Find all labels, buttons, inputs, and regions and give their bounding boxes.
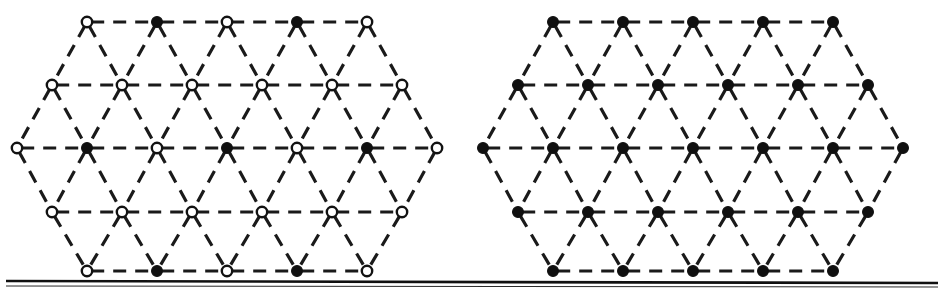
lattice-node-open[interactable] (362, 17, 372, 27)
lattice-node-open[interactable] (117, 207, 127, 217)
lattice-node-filled[interactable] (723, 207, 734, 218)
lattice-node-open[interactable] (187, 207, 197, 217)
lattice-node-filled[interactable] (478, 143, 489, 154)
lattice-node-filled[interactable] (152, 17, 163, 28)
lattice-node-filled[interactable] (82, 143, 93, 154)
lattice-node-filled[interactable] (513, 207, 524, 218)
lattice-node-filled[interactable] (653, 80, 664, 91)
lattice-node-filled[interactable] (688, 266, 699, 277)
lattice-node-filled[interactable] (688, 143, 699, 154)
lattice-node-filled[interactable] (618, 17, 629, 28)
lattice-node-filled[interactable] (758, 143, 769, 154)
lattice-node-open[interactable] (257, 80, 267, 90)
lattice-node-filled[interactable] (292, 17, 303, 28)
lattice-node-open[interactable] (82, 17, 92, 27)
lattice-node-open[interactable] (292, 143, 302, 153)
lattice-node-filled[interactable] (292, 266, 303, 277)
lattice-node-filled[interactable] (152, 266, 163, 277)
lattice-node-filled[interactable] (548, 17, 559, 28)
lattice-node-filled[interactable] (583, 80, 594, 91)
lattice-node-open[interactable] (152, 143, 162, 153)
lattice-node-open[interactable] (12, 143, 22, 153)
lattice-node-filled[interactable] (793, 207, 804, 218)
lattice-node-open[interactable] (397, 80, 407, 90)
lattice-node-open[interactable] (47, 80, 57, 90)
lattice-node-filled[interactable] (548, 143, 559, 154)
lattice-figure (0, 0, 943, 297)
lattice-node-open[interactable] (47, 207, 57, 217)
lattice-node-filled[interactable] (362, 143, 373, 154)
lattice-node-open[interactable] (82, 266, 92, 276)
lattice-node-open[interactable] (222, 17, 232, 27)
lattice-node-open[interactable] (362, 266, 372, 276)
lattice-node-filled[interactable] (898, 143, 909, 154)
lattice-node-open[interactable] (257, 207, 267, 217)
lattice-node-open[interactable] (397, 207, 407, 217)
lattice-node-filled[interactable] (758, 266, 769, 277)
lattice-node-open[interactable] (222, 266, 232, 276)
lattice-node-filled[interactable] (222, 143, 233, 154)
lattice-node-open[interactable] (187, 80, 197, 90)
lattice-node-filled[interactable] (583, 207, 594, 218)
lattice-node-open[interactable] (117, 80, 127, 90)
lattice-node-filled[interactable] (828, 143, 839, 154)
lattice-node-filled[interactable] (688, 17, 699, 28)
lattice-node-filled[interactable] (618, 266, 629, 277)
lattice-node-filled[interactable] (723, 80, 734, 91)
lattice-node-open[interactable] (327, 80, 337, 90)
lattice-node-open[interactable] (432, 143, 442, 153)
lattice-node-open[interactable] (327, 207, 337, 217)
lattice-node-filled[interactable] (548, 266, 559, 277)
lattice-node-filled[interactable] (828, 17, 839, 28)
lattice-node-filled[interactable] (513, 80, 524, 91)
lattice-node-filled[interactable] (793, 80, 804, 91)
lattice-node-filled[interactable] (863, 207, 874, 218)
lattice-node-filled[interactable] (618, 143, 629, 154)
lattice-node-filled[interactable] (863, 80, 874, 91)
lattice-node-filled[interactable] (828, 266, 839, 277)
lattice-node-filled[interactable] (758, 17, 769, 28)
lattice-node-filled[interactable] (653, 207, 664, 218)
